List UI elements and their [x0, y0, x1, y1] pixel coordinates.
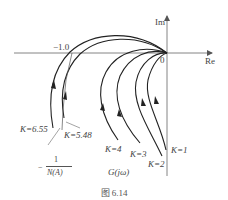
imaginary-axis-label: Im	[155, 18, 165, 27]
arrow-icon	[154, 96, 159, 104]
leader-line	[66, 122, 80, 128]
curve-label-k548: K=5.48	[64, 131, 92, 140]
nyquist-plot-label: G(jω)	[108, 168, 129, 177]
arrow-icon	[100, 103, 105, 111]
describing-function-locus	[62, 53, 72, 130]
fraction-denominator: N(A)	[47, 168, 63, 177]
arrow-icon	[141, 98, 146, 106]
curve-label-k2: K=2	[148, 160, 165, 169]
critical-point-label: −1.0	[53, 43, 69, 52]
minus-sign: −	[38, 163, 43, 172]
origin-label: 0	[160, 56, 165, 65]
curve-label-k655: K=6.55	[20, 125, 48, 134]
fraction-bar	[46, 166, 72, 167]
figure-caption: 图 6.14	[0, 186, 228, 199]
leader-line	[48, 128, 60, 145]
curve-label-k1: K=1	[171, 146, 188, 155]
describing-function-label: − 1 N(A)	[38, 155, 72, 179]
nyquist-curve-k4	[101, 49, 167, 140]
arrow-icon	[51, 80, 56, 89]
fraction-numerator: 1	[54, 155, 58, 164]
curve-label-k3: K=3	[130, 150, 147, 159]
real-axis-label: Re	[205, 57, 215, 66]
curve-label-k4: K=4	[105, 145, 122, 154]
